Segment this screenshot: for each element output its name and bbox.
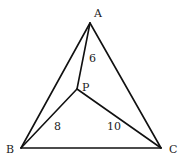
- segment-pc: [77, 89, 161, 148]
- segment-ca: [90, 23, 161, 148]
- labels: 6810ABCP: [6, 7, 177, 156]
- vertex-label-c: C: [169, 143, 177, 156]
- length-label-pc: 10: [107, 120, 121, 133]
- segments: [21, 23, 161, 148]
- vertex-label-a: A: [93, 7, 103, 20]
- triangle-diagram: 6810ABCP: [0, 0, 186, 161]
- length-label-pa: 6: [89, 52, 96, 65]
- length-label-pb: 8: [54, 120, 61, 133]
- vertex-label-p: P: [82, 81, 90, 94]
- vertex-label-b: B: [6, 143, 14, 156]
